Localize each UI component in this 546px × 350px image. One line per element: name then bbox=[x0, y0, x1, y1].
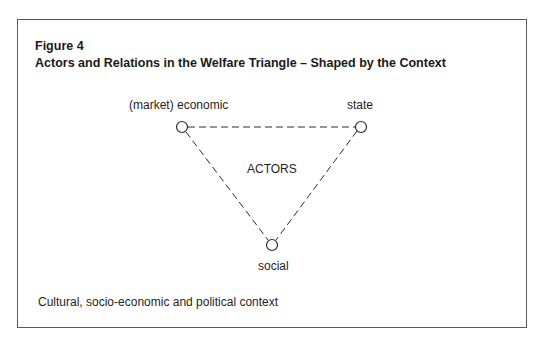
node-label-economic: (market) economic bbox=[129, 98, 228, 112]
node-state-icon bbox=[356, 122, 367, 133]
center-label-actors: ACTORS bbox=[247, 162, 297, 176]
node-label-state: state bbox=[347, 98, 373, 112]
context-label: Cultural, socio-economic and political c… bbox=[38, 295, 278, 309]
edge-economic-social bbox=[186, 132, 268, 240]
edge-state-social bbox=[276, 131, 357, 240]
node-social-icon bbox=[267, 240, 278, 251]
node-economic-icon bbox=[177, 122, 188, 133]
node-label-social: social bbox=[258, 259, 289, 273]
